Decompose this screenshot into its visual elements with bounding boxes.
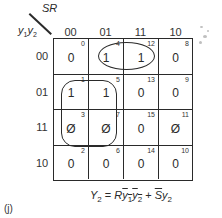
column-header-10: 10 [158, 27, 193, 38]
cell-value: 0 [124, 122, 158, 134]
column-header-00: 00 [53, 27, 88, 38]
scan-artifact [200, 26, 203, 28]
row-header-00: 00 [32, 51, 52, 62]
cell-value: 0 [89, 157, 123, 169]
cell-index: 13 [147, 76, 155, 83]
kmap-cell-13: 13 0 [124, 75, 159, 110]
cell-index: 0 [81, 40, 85, 47]
row-header-01: 01 [32, 87, 52, 98]
group-oval-cells-4-12 [98, 42, 155, 70]
kmap-cell-14: 14 0 [124, 146, 159, 179]
row-header-11: 11 [32, 122, 52, 133]
kmap-cell-2: 2 0 [54, 146, 89, 179]
cell-index: 12 [147, 40, 155, 47]
figure-label: (j) [4, 204, 13, 214]
cell-index: 10 [181, 147, 189, 154]
kmap-cell-15: 15 0 [124, 110, 159, 146]
column-header-11: 11 [123, 27, 158, 38]
cell-value: 0 [124, 157, 158, 169]
kmap-cell-0: 0 0 [54, 39, 89, 75]
cell-index: 6 [116, 147, 120, 154]
cell-index: 9 [185, 76, 189, 83]
cell-value: 0 [124, 87, 158, 99]
column-variable-label: SR [42, 3, 57, 14]
cell-value: 0 [54, 157, 88, 169]
column-header-01: 01 [88, 27, 123, 38]
cell-index: 2 [81, 147, 85, 154]
cell-index: 8 [185, 40, 189, 47]
kmap-cell-9: 9 0 [159, 75, 192, 110]
scan-artifact [207, 30, 209, 32]
cell-value: 0 [159, 87, 192, 99]
cell-index: 15 [147, 111, 155, 118]
scan-artifact [203, 35, 207, 38]
kmap-cell-10: 10 0 [159, 146, 192, 179]
cell-index: 5 [116, 76, 120, 83]
row-variable-label: y1y2 [18, 25, 37, 40]
kmap-cell-6: 6 0 [89, 146, 124, 179]
group-rect-cells-1-5-3-7 [61, 80, 117, 147]
cell-value: 0 [54, 51, 88, 63]
cell-value: 0 [159, 51, 192, 63]
cell-value: 0 [159, 157, 192, 169]
cell-value: Ø [159, 122, 192, 134]
cell-index: 14 [147, 147, 155, 154]
row-header-10: 10 [32, 158, 52, 169]
kmap-cell-8: 8 0 [159, 39, 192, 75]
simplified-equation: Y2 = Ry1y2 + Sy2 [90, 188, 172, 207]
kmap-cell-11: 11 Ø [159, 110, 192, 146]
cell-index: 11 [182, 111, 189, 118]
scan-artifact [199, 41, 202, 44]
